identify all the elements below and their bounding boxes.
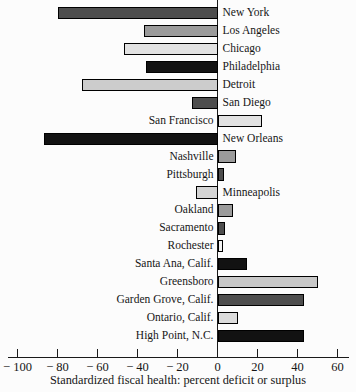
bar-label-nashville: Nashville <box>169 151 213 163</box>
x-tick-label--80: − 80 <box>46 361 69 374</box>
bar-sacramento <box>218 222 225 234</box>
bar-label-san-diego: San Diego <box>223 97 271 109</box>
x-axis-title: Standardized fiscal health: percent defi… <box>0 374 356 386</box>
x-tick-label--60: − 60 <box>86 361 109 374</box>
bar-los-angeles <box>144 25 218 37</box>
x-tick--40 <box>137 349 138 357</box>
x-tick-0 <box>217 349 218 357</box>
bar-new-orleans <box>44 133 218 145</box>
bar-label-los-angeles: Los Angeles <box>223 25 280 37</box>
bar-label-philadelphia: Philadelphia <box>223 61 281 73</box>
bar-detroit <box>82 79 218 91</box>
bar-high-point-n-c <box>218 330 304 342</box>
bar-oakland <box>218 204 233 216</box>
bar-garden-grove-calif <box>218 294 304 306</box>
bar-philadelphia <box>146 61 218 73</box>
x-tick--20 <box>177 349 178 357</box>
bar-label-garden-grove-calif: Garden Grove, Calif. <box>116 294 213 306</box>
bar-san-francisco <box>218 115 262 127</box>
bar-greensboro <box>218 276 318 288</box>
x-axis-line <box>8 357 349 358</box>
bar-label-new-orleans: New Orleans <box>223 133 283 145</box>
bar-label-detroit: Detroit <box>223 79 256 91</box>
x-tick--60 <box>97 349 98 357</box>
x-tick--80 <box>57 349 58 357</box>
bar-chicago <box>124 43 218 55</box>
bar-ontario-calif <box>218 312 238 324</box>
x-tick-40 <box>297 349 298 357</box>
bar-rochester <box>218 240 223 252</box>
bar-new-york <box>58 7 218 19</box>
bar-label-santa-ana-calif: Santa Ana, Calif. <box>135 258 214 270</box>
bar-nashville <box>218 150 236 162</box>
fiscal-health-bar-chart: New YorkLos AngelesChicagoPhiladelphiaDe… <box>0 0 356 392</box>
x-tick-label--40: − 40 <box>126 361 149 374</box>
bar-label-minneapolis: Minneapolis <box>223 187 281 199</box>
bar-label-rochester: Rochester <box>168 241 214 253</box>
x-tick--100 <box>17 349 18 357</box>
x-tick-label-0: 0 <box>214 361 220 374</box>
bar-san-diego <box>192 97 218 109</box>
bar-label-oakland: Oakland <box>175 205 214 217</box>
x-tick-label-20: 20 <box>251 361 264 374</box>
bar-label-san-francisco: San Francisco <box>149 115 214 127</box>
bar-label-high-point-n-c: High Point, N.C. <box>136 330 214 342</box>
x-tick-label-40: 40 <box>291 361 304 374</box>
bar-pittsburgh <box>218 168 224 180</box>
bar-label-ontario-calif: Ontario, Calif. <box>147 312 214 324</box>
bar-label-chicago: Chicago <box>223 43 261 55</box>
bar-label-new-york: New York <box>223 7 270 19</box>
x-tick-20 <box>257 349 258 357</box>
bar-label-greensboro: Greensboro <box>160 276 214 288</box>
bar-label-pittsburgh: Pittsburgh <box>166 169 213 181</box>
x-tick-label--100: − 100 <box>3 361 32 374</box>
x-tick-label--20: − 20 <box>166 361 189 374</box>
bar-minneapolis <box>196 186 218 198</box>
bar-santa-ana-calif <box>218 258 247 270</box>
x-tick-label-60: 60 <box>331 361 344 374</box>
bar-label-sacramento: Sacramento <box>159 223 213 235</box>
x-tick-60 <box>337 349 338 357</box>
